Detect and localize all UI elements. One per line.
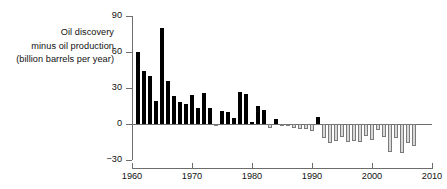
y-tick-label-90: 90	[82, 10, 122, 20]
x-tick-1960	[132, 163, 133, 169]
bar-1976	[226, 112, 231, 124]
bar-1971	[196, 108, 201, 124]
bar-1998	[358, 124, 363, 142]
bar-1964	[154, 101, 159, 124]
bar-1987	[292, 124, 297, 128]
bar-1963	[148, 76, 153, 124]
bar-1991	[316, 117, 321, 124]
bar-1999	[364, 124, 369, 136]
bar-1981	[256, 106, 261, 124]
bar-1993	[328, 124, 333, 143]
y-tick-0	[126, 124, 132, 125]
y-axis-label-line-1: Oil discovery	[0, 26, 114, 40]
bar-1967	[172, 96, 177, 124]
bar-1978	[238, 92, 243, 124]
bar-1977	[232, 118, 237, 124]
x-tick-label-1990: 1990	[292, 171, 332, 181]
x-tick-2000	[372, 163, 373, 169]
x-axis-line	[132, 168, 432, 169]
y-tick-30	[126, 88, 132, 89]
bar-2005	[400, 124, 405, 153]
bar-1996	[346, 124, 351, 142]
y-tick-label-30: 30	[82, 82, 122, 92]
y-tick-90	[126, 16, 132, 17]
bar-1990	[310, 124, 315, 131]
bar-1975	[220, 111, 225, 124]
x-tick-label-2010: 2010	[412, 171, 447, 181]
bar-1965	[160, 28, 165, 124]
bar-1997	[352, 124, 357, 141]
bar-2003	[388, 124, 393, 152]
bar-2007	[412, 124, 417, 146]
x-tick-1990	[312, 163, 313, 169]
bar-2001	[376, 124, 381, 130]
bar-1985	[280, 124, 285, 126]
y-tick-60	[126, 52, 132, 53]
y-axis-line	[132, 16, 133, 160]
bar-1988	[298, 124, 303, 129]
x-tick-2010	[432, 163, 433, 169]
bar-1992	[322, 124, 327, 138]
x-tick-label-1980: 1980	[232, 171, 272, 181]
bar-2002	[382, 124, 387, 137]
bar-2006	[406, 124, 411, 143]
bar-1983	[268, 124, 273, 128]
bar-2004	[394, 124, 399, 138]
bar-1961	[136, 52, 141, 124]
bar-1979	[244, 94, 249, 124]
x-tick-1980	[252, 163, 253, 169]
bar-1980	[250, 122, 255, 124]
x-tick-1970	[192, 163, 193, 169]
bar-1986	[286, 124, 291, 126]
bar-1994	[334, 124, 339, 141]
y-tick-label-0: 0	[82, 118, 122, 128]
bar-1970	[190, 95, 195, 124]
bar-2000	[370, 124, 375, 140]
y-tick-label-−30: −30	[82, 154, 122, 164]
bar-1962	[142, 71, 147, 124]
bar-1974	[214, 124, 219, 126]
bar-1969	[184, 104, 189, 124]
x-tick-label-2000: 2000	[352, 171, 392, 181]
bar-1984	[274, 119, 279, 124]
bar-1982	[262, 110, 267, 124]
bar-1966	[166, 81, 171, 124]
bar-1972	[202, 93, 207, 124]
bar-1973	[208, 108, 213, 124]
bar-1995	[340, 124, 345, 137]
bar-1968	[178, 102, 183, 124]
x-tick-label-1960: 1960	[112, 171, 152, 181]
y-tick-−30	[126, 160, 132, 161]
x-tick-label-1970: 1970	[172, 171, 212, 181]
y-tick-label-60: 60	[82, 46, 122, 56]
bar-1989	[304, 124, 309, 129]
